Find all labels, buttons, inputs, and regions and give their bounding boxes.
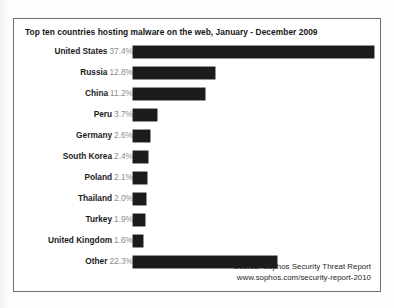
bar-row: United States37.4% <box>14 44 382 65</box>
scan-edge-shading <box>0 0 9 308</box>
bar-track <box>133 88 378 100</box>
bar-row: Thailand2.0% <box>14 191 382 212</box>
source-line-report: Source: Sophos Security Threat Report <box>233 262 371 273</box>
category-name: Thailand <box>78 193 112 203</box>
category-value: 2.4% <box>114 151 133 161</box>
bar-row: Poland2.1% <box>14 170 382 191</box>
bar-row-label: Other22.3% <box>85 256 133 267</box>
bar-row: Germany2.6% <box>14 128 382 149</box>
category-name: Germany <box>76 130 112 140</box>
bar-row: United Kingdom1.6% <box>14 233 382 254</box>
bar <box>133 67 215 79</box>
category-name: Other <box>85 256 107 266</box>
bar-row-label: Poland2.1% <box>84 172 133 183</box>
bar-track <box>133 109 378 121</box>
bar-track <box>133 130 378 142</box>
bar-row: Turkey1.9% <box>14 212 382 233</box>
bar-track <box>133 235 378 247</box>
bar-row-label: Thailand2.0% <box>78 193 133 204</box>
bar <box>133 88 205 100</box>
bar-row-label: Russia12.8% <box>80 67 133 78</box>
category-name: Poland <box>84 172 112 182</box>
category-value: 2.1% <box>114 172 133 182</box>
category-value: 2.0% <box>114 193 133 203</box>
category-value: 3.7% <box>114 109 133 119</box>
category-value: 22.3% <box>109 256 133 266</box>
bar-row-label: Germany2.6% <box>76 130 133 141</box>
bar <box>133 172 147 184</box>
bar-row-label: South Korea2.4% <box>63 151 133 162</box>
bar-row: Russia12.8% <box>14 65 382 86</box>
bar-chart-plot: United States37.4%Russia12.8%China11.2%P… <box>14 44 382 275</box>
bar-track <box>133 193 378 205</box>
category-name: United Kingdom <box>48 235 112 245</box>
bar-row: South Korea2.4% <box>14 149 382 170</box>
chart-title: Top ten countries hosting malware on the… <box>25 27 318 37</box>
bar-row-label: China11.2% <box>85 88 133 99</box>
bar-row: China11.2% <box>14 86 382 107</box>
bar-track <box>133 214 378 226</box>
category-value: 2.6% <box>114 130 133 140</box>
bar <box>133 235 143 247</box>
category-value: 12.8% <box>109 67 133 77</box>
bar <box>133 130 150 142</box>
bar-track <box>133 151 378 163</box>
bar <box>133 151 148 163</box>
bar-track <box>133 172 378 184</box>
bar <box>133 193 146 205</box>
category-value: 11.2% <box>110 88 133 98</box>
category-name: Turkey <box>85 214 112 224</box>
bar-row-label: Turkey1.9% <box>85 214 133 225</box>
bar-row-label: Peru3.7% <box>94 109 133 120</box>
category-name: Russia <box>80 67 107 77</box>
category-name: China <box>85 88 108 98</box>
bar <box>133 214 145 226</box>
bar-row: Peru3.7% <box>14 107 382 128</box>
bar <box>133 109 157 121</box>
category-value: 1.9% <box>114 214 133 224</box>
chart-page: Top ten countries hosting malware on the… <box>0 0 394 308</box>
source-line-url[interactable]: www.sophos.com/security-report-2010 <box>233 273 371 284</box>
source-attribution: Source: Sophos Security Threat Report ww… <box>233 262 371 283</box>
category-value: 37.4% <box>109 46 133 56</box>
chart-frame: Top ten countries hosting malware on the… <box>13 18 381 292</box>
category-name: United States <box>54 46 107 56</box>
category-name: South Korea <box>63 151 112 161</box>
bar-track <box>133 67 378 79</box>
bar-row-label: United States37.4% <box>54 46 133 57</box>
category-name: Peru <box>94 109 112 119</box>
bar-row-label: United Kingdom1.6% <box>48 235 133 246</box>
category-value: 1.6% <box>114 235 133 245</box>
bar <box>133 46 374 58</box>
bar-track <box>133 46 378 58</box>
